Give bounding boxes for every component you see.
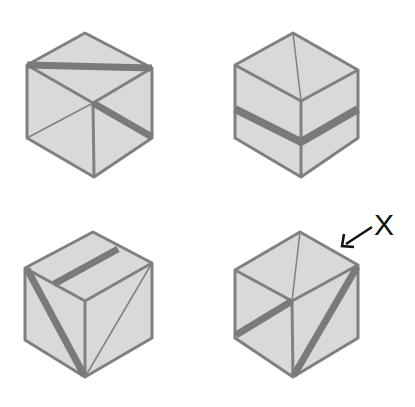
cube-2 <box>235 33 358 177</box>
cube-4 <box>235 232 358 377</box>
arrow-icon <box>342 227 372 247</box>
cube-1 <box>27 33 152 177</box>
cube-1-thick-band-top <box>27 65 152 68</box>
cube-puzzle-diagram <box>0 0 415 407</box>
cube-4-edge-center-bottom <box>292 301 293 377</box>
x-label: X <box>374 210 394 240</box>
cube-4-outline <box>235 232 358 377</box>
cube-3 <box>25 232 152 377</box>
cube-1-edge-center-bottom <box>93 103 94 177</box>
cube-2-outline <box>235 33 358 177</box>
